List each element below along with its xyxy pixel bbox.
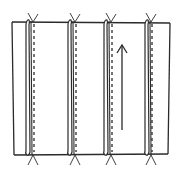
tuck-fold [26,20,30,155]
thread-tail-bottom [70,155,80,165]
thread-tail-bottom [146,155,156,165]
tuck-fold-edge [73,21,74,155]
tuck-fold-edge [150,21,151,155]
diagram-canvas [0,0,177,176]
panel-right-edge [168,23,170,154]
thread-tail-bottom [28,155,38,165]
tuck-fold [68,20,72,155]
panel-left-edge [12,22,14,155]
thread-tail-bottom [106,155,116,165]
tuck-diagram [0,0,177,176]
tuck-fold [104,20,108,155]
tuck-fold-edge [31,21,32,155]
tuck-fold-edge [109,21,110,155]
tuck-fold [145,20,149,155]
